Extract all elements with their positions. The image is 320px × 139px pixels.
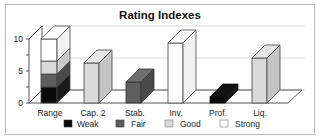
- ytick-0: 0: [18, 98, 23, 108]
- legend-swatch-good: [165, 120, 173, 127]
- legend-label-good: Good: [180, 119, 201, 129]
- legend-label-fair: Fair: [131, 119, 146, 129]
- legend: Weak Fair Good Strong: [64, 119, 260, 129]
- ytick-10: 10: [14, 34, 24, 44]
- ytick-5: 5: [18, 66, 23, 76]
- legend-swatch-fair: [116, 120, 124, 127]
- category-label-prof: Prof.: [209, 108, 227, 118]
- category-label-liq: Liq.: [253, 108, 267, 118]
- bar-range: [41, 26, 70, 103]
- category-label-range: Range: [37, 108, 62, 118]
- legend-label-weak: Weak: [77, 119, 99, 129]
- bar-prof: [210, 84, 238, 103]
- bar-inv: [168, 30, 196, 103]
- bar-stab: [126, 69, 154, 103]
- bar-liq: [252, 45, 280, 103]
- category-label-stab: Stab.: [125, 108, 145, 118]
- chart-plot: 10 5 0: [0, 0, 320, 139]
- legend-label-strong: Strong: [235, 119, 260, 129]
- category-label-inv: Inv.: [169, 108, 182, 118]
- category-label-cap2: Cap. 2: [80, 108, 105, 118]
- legend-swatch-weak: [64, 120, 72, 127]
- y-axis: [26, 26, 42, 103]
- legend-swatch-strong: [220, 120, 228, 127]
